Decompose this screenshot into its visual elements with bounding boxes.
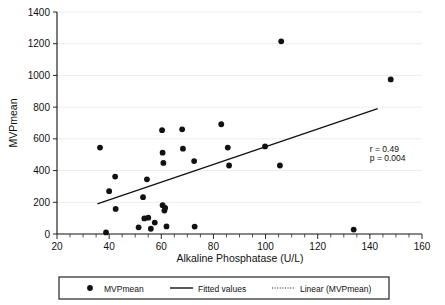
- y-axis-ticks: [53, 12, 57, 234]
- y-tick-label: 200: [33, 197, 50, 208]
- fit-line: [97, 109, 377, 204]
- x-tick-label: 160: [414, 241, 431, 252]
- x-axis-title: Alkaline Phosphatase (U/L): [176, 252, 303, 264]
- annotation-text: p = 0.004: [370, 153, 406, 163]
- chart-canvas: 0200400600800100012001400 20406080100120…: [0, 0, 445, 305]
- legend: MVPmeanFitted valuesLinear (MVPmean): [87, 284, 371, 294]
- y-tick-label: 800: [33, 102, 50, 113]
- data-point: [103, 230, 109, 236]
- y-tick-label: 600: [33, 133, 50, 144]
- stat-annotations: r = 0.49p = 0.004: [370, 144, 406, 164]
- x-tick-label: 100: [257, 241, 274, 252]
- data-points: [97, 38, 393, 235]
- data-point: [277, 163, 283, 169]
- x-tick-label: 120: [309, 241, 326, 252]
- data-point: [112, 174, 118, 180]
- y-tick-label: 400: [33, 165, 50, 176]
- data-point: [351, 227, 357, 233]
- x-tick-label: 40: [104, 241, 116, 252]
- data-point: [152, 220, 158, 226]
- data-point: [159, 127, 165, 133]
- data-point: [180, 146, 186, 152]
- data-point: [148, 226, 154, 232]
- legend-label: Linear (MVPmean): [300, 284, 372, 294]
- legend-label: Fitted values: [198, 284, 246, 294]
- gridlines: [57, 12, 422, 202]
- data-point: [191, 158, 197, 164]
- x-tick-label: 80: [208, 241, 220, 252]
- data-point: [106, 188, 112, 194]
- data-point: [144, 176, 150, 182]
- fitted-values-line: [97, 109, 377, 204]
- y-tick-label: 1200: [28, 38, 51, 49]
- data-point: [160, 150, 166, 156]
- data-point: [97, 145, 103, 151]
- data-point: [140, 194, 146, 200]
- y-tick-label: 0: [44, 229, 50, 240]
- x-tick-label: 60: [156, 241, 168, 252]
- annotation-text: r = 0.49: [370, 144, 399, 154]
- data-point: [218, 121, 224, 127]
- y-tick-label: 1400: [28, 7, 51, 18]
- x-tick-label: 140: [362, 241, 379, 252]
- data-point: [113, 206, 119, 212]
- data-point: [164, 223, 170, 229]
- x-tick-label: 20: [51, 241, 63, 252]
- scatter-chart: 0200400600800100012001400 20406080100120…: [0, 0, 445, 305]
- y-axis-title: MVPmean: [7, 98, 19, 147]
- data-point: [160, 160, 166, 166]
- data-point: [225, 145, 231, 151]
- data-point: [262, 144, 268, 150]
- data-point: [192, 224, 198, 230]
- data-point: [278, 38, 284, 44]
- data-point: [388, 76, 394, 82]
- data-point: [162, 205, 168, 211]
- data-point: [226, 163, 232, 169]
- legend-marker-circle-icon: [87, 285, 93, 291]
- y-tick-label: 1000: [28, 70, 51, 81]
- y-axis-tick-labels: 0200400600800100012001400: [28, 7, 51, 240]
- data-point: [136, 224, 142, 230]
- legend-label: MVPmean: [104, 284, 144, 294]
- x-axis-tick-labels: 20406080100120140160: [51, 241, 430, 252]
- data-point: [145, 215, 151, 221]
- data-point: [179, 126, 185, 132]
